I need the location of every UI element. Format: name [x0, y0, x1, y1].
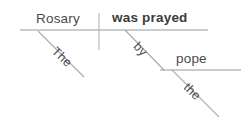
subject-label: Rosary [36, 12, 80, 26]
verb-label: was prayed [112, 11, 188, 25]
prepositional-object-label: pope [176, 52, 207, 66]
sentence-diagram: Rosary was prayed The by pope the [0, 0, 245, 120]
